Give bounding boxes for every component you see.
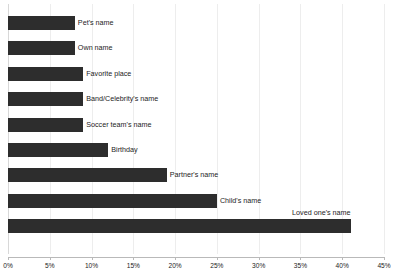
bar [8,143,108,157]
bar-category-label: Partner's name [170,172,219,179]
bar-category-label: Favorite place [86,70,131,77]
bar-row: Partner's name [8,168,384,182]
bar-category-label: Loved one's name [292,209,351,216]
x-tick [259,257,260,260]
bar-category-label: Birthday [111,146,137,153]
bar [8,67,83,81]
bar-row: Pet's name [8,16,384,30]
x-tick [217,257,218,260]
gridline-45% [384,4,385,254]
bar-row: Band/Celebrity's name [8,92,384,106]
bar [8,194,217,208]
bar [8,92,83,106]
x-tick-label: 35% [294,263,307,270]
bar [8,16,75,30]
x-tick [384,257,385,260]
bar-category-label: Band/Celebrity's name [86,96,158,103]
x-tick [92,257,93,260]
bar-row: Birthday [8,143,384,157]
bar-row: Loved one's name [8,219,384,233]
x-tick-label: 40% [336,263,349,270]
x-tick [300,257,301,260]
x-tick-label: 5% [45,263,55,270]
bar-row: Favorite place [8,67,384,81]
x-tick-label: 0% [3,263,13,270]
x-tick [50,257,51,260]
x-tick [175,257,176,260]
x-axis-line [8,257,384,258]
bar-category-label: Soccer team's name [86,121,151,128]
x-tick-label: 30% [252,263,265,270]
bar-row: Soccer team's name [8,118,384,132]
bar-category-label: Own name [78,45,113,52]
x-tick [133,257,134,260]
bar-chart: Pet's nameOwn nameFavorite placeBand/Cel… [0,0,420,276]
x-tick-label: 25% [210,263,223,270]
bar-category-label: Child's name [220,197,261,204]
bar [8,41,75,55]
x-tick-label: 10% [85,263,98,270]
bar [8,168,167,182]
x-tick-label: 45% [377,263,390,270]
x-tick-label: 15% [127,263,140,270]
bar-row: Child's name [8,194,384,208]
bar [8,118,83,132]
bar-category-label: Pet's name [78,19,114,26]
x-tick-label: 20% [169,263,182,270]
x-tick [342,257,343,260]
x-tick [8,257,9,260]
bar-row: Own name [8,41,384,55]
bar [8,219,351,233]
plot-area: Pet's nameOwn nameFavorite placeBand/Cel… [8,4,384,254]
